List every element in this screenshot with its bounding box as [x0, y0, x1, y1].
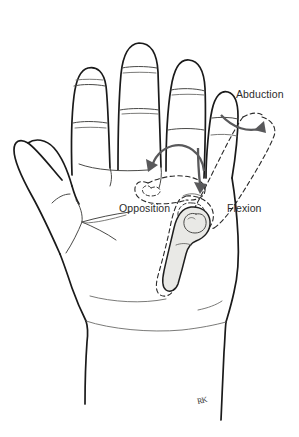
label-abduction: Abduction — [236, 89, 284, 100]
opposition-arrowhead — [146, 159, 158, 172]
anatomical-figure: Abduction Opposition Flexion RK — [0, 0, 299, 437]
abduction-arrowhead — [254, 121, 266, 133]
first-metacarpal-bone — [163, 207, 210, 291]
label-flexion: Flexion — [227, 203, 262, 214]
ghost-opposed-thumb — [135, 176, 205, 204]
opposition-arrow — [146, 145, 204, 172]
label-opposition: Opposition — [119, 203, 170, 214]
hand-drawing — [0, 0, 299, 437]
finger-creases — [73, 67, 238, 137]
